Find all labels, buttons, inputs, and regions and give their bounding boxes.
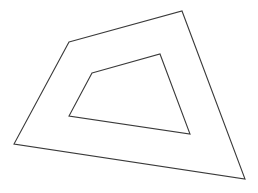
inner-quadrilateral	[69, 54, 190, 134]
outer-quadrilateral	[14, 11, 245, 179]
diagram-canvas	[0, 0, 258, 193]
